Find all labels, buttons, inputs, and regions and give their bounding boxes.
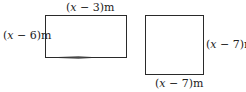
- rectangle-shape: [45, 15, 127, 58]
- square-shape: [145, 15, 204, 75]
- square-side-bottom-label: (x − 7)m: [155, 78, 203, 89]
- scan-smudge: [58, 56, 92, 59]
- rectangle-height-label: (x − 6)m: [3, 30, 51, 41]
- rectangle-width-label: (x − 3)m: [66, 2, 114, 13]
- square-side-right-label: (x − 7)m: [206, 39, 246, 50]
